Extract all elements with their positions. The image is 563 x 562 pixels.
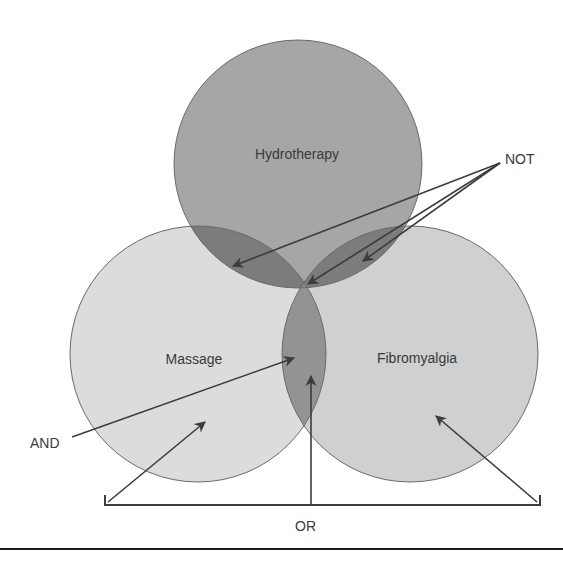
- and-label: AND: [30, 435, 60, 451]
- venn-diagram: [0, 0, 563, 562]
- massage-label: Massage: [166, 351, 223, 367]
- or-label: OR: [295, 518, 316, 534]
- or-bracket: [105, 495, 540, 505]
- not-label: NOT: [505, 151, 535, 167]
- hydrotherapy-label: Hydrotherapy: [255, 146, 339, 162]
- bottom-rule: [0, 548, 563, 550]
- fibromyalgia-label: Fibromyalgia: [377, 350, 457, 366]
